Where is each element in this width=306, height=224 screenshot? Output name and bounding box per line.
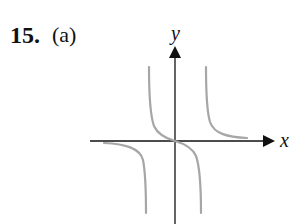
y-axis-label: y [169, 22, 180, 45]
graph: x y [0, 0, 306, 224]
y-axis-arrow-icon [169, 46, 181, 58]
x-axis-arrow-icon [263, 135, 275, 147]
x-axis-label: x [279, 129, 289, 151]
curve-branch-left [104, 143, 146, 213]
curve-branch-right [206, 67, 247, 138]
